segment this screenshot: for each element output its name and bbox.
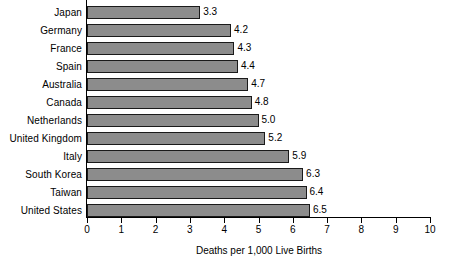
x-tick-label: 8: [346, 224, 376, 236]
bar: [87, 168, 303, 181]
bar: [87, 6, 200, 19]
bar-value-label: 6.4: [307, 185, 324, 199]
bar-value-label: 4.7: [248, 77, 265, 91]
x-tick-label: 1: [106, 224, 136, 236]
bar-value-label: 6.5: [310, 203, 327, 217]
x-tick-mark: [87, 218, 88, 223]
bar-row: 4.7: [87, 78, 430, 91]
bar: [87, 42, 234, 55]
x-tick-mark: [327, 218, 328, 223]
bar-row: 4.2: [87, 24, 430, 37]
x-tick-mark: [190, 218, 191, 223]
category-label: Netherlands: [0, 114, 82, 127]
x-tick-label: 4: [209, 224, 239, 236]
bar-value-label: 5.2: [265, 131, 282, 145]
category-label: United States: [0, 204, 82, 217]
bar-value-label: 5.0: [259, 113, 276, 127]
bar: [87, 186, 307, 199]
bar-row: 5.0: [87, 114, 430, 127]
bar-value-label: 4.3: [234, 41, 251, 55]
x-tick-mark: [396, 218, 397, 223]
x-tick-label: 7: [312, 224, 342, 236]
bar: [87, 96, 252, 109]
y-axis-line: [86, 0, 87, 218]
bar-row: 6.3: [87, 168, 430, 181]
x-tick-mark: [361, 218, 362, 223]
category-label: United Kingdom: [0, 132, 82, 145]
x-tick-label: 2: [141, 224, 171, 236]
bar: [87, 60, 238, 73]
bar: [87, 78, 248, 91]
x-tick-label: 5: [244, 224, 274, 236]
x-tick-mark: [224, 218, 225, 223]
bar-value-label: 5.9: [289, 149, 306, 163]
x-tick-mark: [121, 218, 122, 223]
bar-row: 5.2: [87, 132, 430, 145]
bar-row: 6.4: [87, 186, 430, 199]
category-label: Italy: [0, 150, 82, 163]
bar: [87, 114, 259, 127]
category-axis-labels: JapanGermanyFranceSpainAustraliaCanadaNe…: [0, 0, 82, 218]
bar-value-label: 4.4: [238, 59, 255, 73]
bar-chart: JapanGermanyFranceSpainAustraliaCanadaNe…: [0, 0, 452, 268]
category-label: Australia: [0, 78, 82, 91]
category-label: South Korea: [0, 168, 82, 181]
category-label: France: [0, 42, 82, 55]
bar: [87, 150, 289, 163]
plot-area: 3.34.24.34.44.74.85.05.25.96.36.46.5: [87, 0, 430, 218]
category-label: Taiwan: [0, 186, 82, 199]
bar-row: 3.3: [87, 6, 430, 19]
bar-row: 5.9: [87, 150, 430, 163]
bar-value-label: 6.3: [303, 167, 320, 181]
x-tick-label: 6: [278, 224, 308, 236]
x-tick-mark: [259, 218, 260, 223]
x-axis-title: Deaths per 1,000 Live Births: [87, 245, 431, 257]
category-label: Japan: [0, 6, 82, 19]
x-tick-label: 3: [175, 224, 205, 236]
bar-value-label: 3.3: [200, 5, 217, 19]
bar-row: 4.4: [87, 60, 430, 73]
x-tick-label: 9: [381, 224, 411, 236]
bar-row: 6.5: [87, 204, 430, 217]
bar-row: 4.8: [87, 96, 430, 109]
x-tick-label: 0: [72, 224, 102, 236]
bar: [87, 204, 310, 217]
bar-value-label: 4.8: [252, 95, 269, 109]
bar: [87, 132, 265, 145]
category-label: Canada: [0, 96, 82, 109]
category-label: Spain: [0, 60, 82, 73]
bar: [87, 24, 231, 37]
x-tick-mark: [430, 218, 431, 223]
x-tick-mark: [293, 218, 294, 223]
category-label: Germany: [0, 24, 82, 37]
x-tick-label: 10: [415, 224, 445, 236]
bar-row: 4.3: [87, 42, 430, 55]
x-tick-mark: [156, 218, 157, 223]
bar-value-label: 4.2: [231, 23, 248, 37]
